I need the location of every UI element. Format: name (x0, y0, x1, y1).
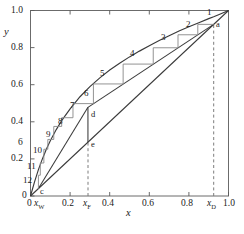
stage-label-5: 5 (100, 69, 105, 78)
x-tick-label-0.6: 0.6 (142, 199, 154, 209)
stage-label-10: 10 (33, 146, 42, 155)
stage-label-4: 4 (130, 49, 135, 58)
rectifying-operating-line (88, 24, 214, 107)
diagonal-45-line (31, 11, 229, 197)
stage-label-3: 3 (161, 33, 166, 42)
stage-step-11 (40, 163, 44, 175)
x-tick-label-0.8: 0.8 (181, 199, 193, 209)
x-tick-label-1.0: 1.0 (223, 199, 235, 209)
xf-sub: F (87, 203, 91, 210)
point-label-e: e (91, 140, 95, 149)
point-label-a: a (216, 20, 220, 29)
xf-label: xF (83, 199, 91, 210)
x-tick-label-0: 0 (27, 199, 32, 209)
figure-root: 1.0 0.8 0.6 0.4 0.2 0 6 y 0 0.2 0.4 0.6 … (0, 0, 244, 234)
x-tick-label-0.4: 0.4 (102, 199, 114, 209)
stage-label-11: 11 (27, 162, 36, 171)
point-label-d: d (91, 110, 95, 119)
stage-label-6: 6 (84, 89, 89, 98)
x-axis-label: x (126, 208, 131, 219)
stage-label-9: 9 (46, 130, 51, 139)
xd-sub: D (211, 203, 216, 210)
y-tick-label-0.6: 0.6 (11, 80, 23, 90)
xw-sub: W (38, 203, 44, 210)
xd-label: xD (207, 199, 216, 210)
stage-label-8: 8 (58, 117, 63, 126)
stage-label-2: 2 (186, 20, 191, 29)
x-tick-label-0.2: 0.2 (62, 199, 74, 209)
y-tick-label-1.0: 1.0 (11, 6, 23, 16)
point-label-c: c (40, 187, 44, 196)
curve-intercept-label: 6 (18, 138, 23, 148)
stage-label-1: 1 (207, 8, 212, 17)
xw-label: xW (34, 199, 44, 210)
x-axis-ticks (31, 192, 229, 196)
stage-label-12: 12 (23, 176, 32, 185)
y-tick-label-0.8: 0.8 (11, 43, 23, 53)
y-tick-label-0.4: 0.4 (11, 117, 23, 127)
stage-label-7: 7 (70, 101, 75, 110)
y-tick-label-0.2: 0.2 (11, 154, 23, 164)
dashed-verticals (88, 24, 214, 196)
y-axis-label: y (4, 27, 9, 38)
top-axis-ticks (70, 11, 189, 15)
